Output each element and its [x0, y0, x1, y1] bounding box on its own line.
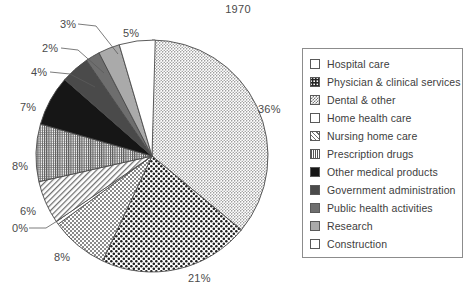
- legend-swatch-icon: [310, 77, 320, 87]
- legend-swatch-icon: [310, 131, 320, 141]
- legend-item[interactable]: Physician & clinical services: [310, 73, 462, 91]
- pie-percentage-label: 0%: [12, 222, 28, 234]
- legend-swatch-icon: [310, 239, 320, 249]
- legend-swatch-icon: [310, 203, 320, 213]
- legend-item[interactable]: Prescription drugs: [310, 145, 462, 163]
- pie-percentage-label: 5%: [123, 27, 139, 39]
- pie-percentage-label: 4%: [31, 66, 47, 78]
- legend-swatch-icon: [310, 221, 320, 231]
- legend-item[interactable]: Nursing home care: [310, 127, 462, 145]
- pie-percentage-label: 8%: [12, 160, 28, 172]
- legend-item-label: Public health activities: [327, 203, 433, 214]
- legend-item-label: Prescription drugs: [327, 149, 413, 160]
- pie-percentage-label: 21%: [188, 272, 211, 284]
- pie-percentage-label: 7%: [20, 101, 36, 113]
- legend-swatch-icon: [310, 113, 320, 123]
- legend-item-label: Construction: [327, 239, 387, 250]
- legend-item-label: Hospital care: [327, 59, 390, 70]
- legend-item[interactable]: Public health activities: [310, 199, 462, 217]
- legend-item-label: Research: [327, 221, 373, 232]
- legend-item[interactable]: Research: [310, 217, 462, 235]
- legend-item[interactable]: Construction: [310, 235, 462, 253]
- legend-item-label: Physician & clinical services: [327, 77, 461, 88]
- pie-percentage-label: 3%: [60, 18, 76, 30]
- legend-swatch-icon: [310, 149, 320, 159]
- legend-item[interactable]: Hospital care: [310, 55, 462, 73]
- legend-item[interactable]: Other medical products: [310, 163, 462, 181]
- legend-item-label: Government administration: [327, 185, 456, 196]
- legend-swatch-icon: [310, 95, 320, 105]
- legend-item[interactable]: Dental & other: [310, 91, 462, 109]
- chart-canvas: 1970: [0, 0, 472, 295]
- legend-item-label: Dental & other: [327, 95, 396, 106]
- legend-item-label: Nursing home care: [327, 131, 417, 142]
- legend-swatch-icon: [310, 167, 320, 177]
- legend-item[interactable]: Home health care: [310, 109, 462, 127]
- legend-item-label: Home health care: [327, 113, 411, 124]
- pie-percentage-label: 36%: [258, 103, 281, 115]
- legend-swatch-icon: [310, 59, 320, 69]
- pie-percentage-label: 6%: [20, 205, 36, 217]
- pie-percentage-label: 8%: [54, 251, 70, 263]
- legend-item[interactable]: Government administration: [310, 181, 462, 199]
- legend-item-label: Other medical products: [327, 167, 438, 178]
- legend-swatch-icon: [310, 185, 320, 195]
- legend: Hospital carePhysician & clinical servic…: [302, 48, 463, 258]
- pie-percentage-label: 2%: [42, 42, 58, 54]
